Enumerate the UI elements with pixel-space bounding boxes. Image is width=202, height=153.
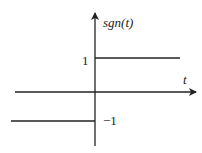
signum-diagram: sgn(t) t 1 −1	[0, 0, 202, 153]
x-axis-label: t	[183, 72, 187, 87]
function-label: sgn(t)	[103, 15, 133, 30]
upper-value-label: 1	[82, 53, 89, 68]
lower-value-label: −1	[103, 113, 117, 128]
